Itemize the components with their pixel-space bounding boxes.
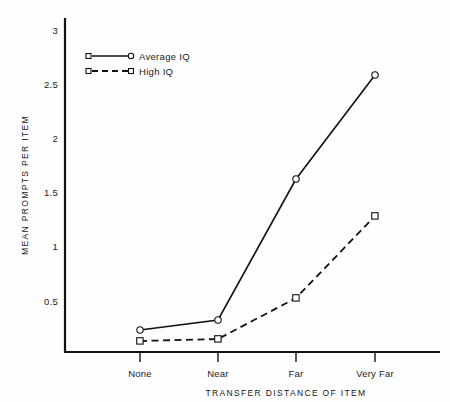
legend-marker-start-average-iq [86, 54, 91, 59]
legend-entry-high-iq: High IQ [86, 66, 173, 77]
x-category-label-near: Near [207, 368, 228, 379]
chart-figure: 3 2.5 2 1.5 1 0.5 None Near Far Very Far… [0, 0, 450, 402]
data-point-high-iq-far [293, 295, 299, 301]
y-tick-label-3: 3 [52, 25, 58, 36]
y-tick-label-2point5: 2.5 [44, 79, 58, 90]
legend-entry-average-iq: Average IQ [86, 51, 190, 62]
data-point-average-iq-very-far [372, 72, 378, 78]
data-point-average-iq-near [215, 317, 221, 323]
series-line-high-iq [140, 216, 375, 341]
data-point-average-iq-far [293, 176, 299, 182]
x-category-label-far: Far [289, 368, 304, 379]
data-point-high-iq-none [137, 338, 143, 344]
y-tick-label-2: 2 [52, 133, 58, 144]
y-tick-label-1point5: 1.5 [44, 187, 58, 198]
chart-legend: Average IQ High IQ [86, 51, 190, 77]
x-category-label-none: None [128, 368, 152, 379]
legend-marker-start-high-iq [86, 69, 91, 74]
legend-marker-end-high-iq [129, 69, 134, 74]
legend-label-high-iq: High IQ [139, 66, 173, 77]
data-point-high-iq-near [215, 336, 221, 342]
y-tick-label-0point5: 0.5 [44, 296, 58, 307]
line-chart-canvas: 3 2.5 2 1.5 1 0.5 None Near Far Very Far… [0, 0, 450, 402]
legend-label-average-iq: Average IQ [139, 51, 190, 62]
data-point-high-iq-very-far [372, 213, 378, 219]
x-axis-title: TRANSFER DISTANCE OF ITEM [205, 388, 366, 398]
x-category-label-very-far: Very Far [356, 368, 394, 379]
y-axis-title: MEAN PROMPTS PER ITEM [20, 115, 30, 255]
data-point-average-iq-none [137, 327, 143, 333]
y-tick-label-1: 1 [52, 241, 58, 252]
series-line-average-iq [140, 75, 375, 330]
legend-marker-end-average-iq [128, 53, 133, 58]
